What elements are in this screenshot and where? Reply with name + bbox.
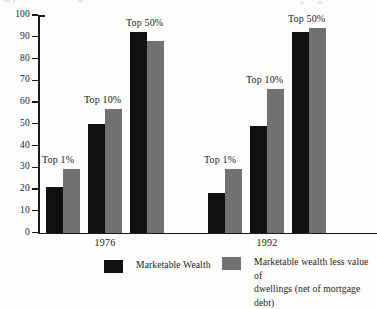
bar-wealth-less-dwellings [225, 169, 242, 232]
pair-annotation-label: Top 1% [204, 154, 236, 165]
pair-annotation-label: Top 1% [42, 154, 74, 165]
y-axis-tick [32, 58, 38, 59]
pair-annotation-label: Top 10% [84, 94, 121, 105]
y-axis-tick [32, 167, 38, 168]
bar-marketable-wealth [88, 124, 105, 233]
y-axis-tick-label: 40 [20, 141, 30, 151]
y-axis-tick-label: 0 [25, 228, 30, 238]
y-axis-tick-label: 60 [20, 97, 30, 107]
y-axis-tick-label: 50 [20, 119, 30, 129]
bar-wealth-less-dwellings [267, 89, 284, 233]
chart-legend: Marketable Wealth Marketable wealth less… [0, 255, 377, 284]
bar-wealth-less-dwellings [309, 28, 326, 232]
y-axis-line [38, 15, 40, 234]
legend-swatch-gray [222, 257, 241, 270]
y-axis-tick [32, 80, 38, 81]
legend-label-line2: dwellings (net of mortgage debt) [254, 282, 377, 309]
y-axis-tick-label: 10 [20, 206, 30, 216]
x-axis-group-label-1976: 1976 [46, 237, 164, 248]
scan-artifact [318, 1, 322, 4]
legend-item-wealth-less-dwellings: Marketable wealth less value of dwelling… [222, 255, 377, 309]
y-axis-tick [32, 123, 38, 124]
scan-artifact [78, 0, 83, 2]
bar-marketable-wealth [46, 187, 63, 233]
y-axis-tick [32, 210, 38, 211]
y-axis-tick-labels: 1009080706050403020100 [0, 15, 30, 234]
x-axis-group-label-1992: 1992 [208, 237, 326, 248]
scan-artifact [4, 0, 10, 2]
y-axis-tick-label: 20 [20, 184, 30, 194]
legend-item-marketable-wealth: Marketable Wealth [104, 258, 211, 273]
y-axis-tick [32, 101, 38, 102]
legend-label-two: Marketable wealth less value of dwelling… [254, 255, 377, 309]
legend-swatch-dark [104, 260, 123, 273]
y-axis-tick [32, 145, 38, 146]
bar-wealth-less-dwellings [105, 109, 122, 233]
y-axis-tick-label: 30 [20, 162, 30, 172]
y-axis-top-cap [38, 15, 45, 17]
bar-marketable-wealth [292, 32, 309, 232]
y-axis-tick [32, 232, 38, 233]
y-axis-tick-label: 100 [15, 10, 30, 20]
y-axis-tick [32, 188, 38, 189]
legend-label-line1: Marketable wealth less value of [254, 256, 368, 281]
bar-wealth-less-dwellings [63, 169, 80, 232]
bar-marketable-wealth [208, 193, 225, 232]
bar-wealth-less-dwellings [147, 41, 164, 232]
legend-label: Marketable Wealth [136, 258, 211, 272]
y-axis-tick-label: 90 [20, 32, 30, 42]
x-axis-line [38, 233, 377, 235]
scan-artifact [300, 1, 304, 4]
scan-artifact [13, 0, 15, 3]
pair-annotation-label: Top 50% [288, 13, 325, 24]
pair-annotation-label: Top 50% [126, 17, 163, 28]
pair-annotation-label: Top 10% [246, 74, 283, 85]
bar-marketable-wealth [130, 32, 147, 232]
y-axis-tick [32, 14, 38, 15]
y-axis-tick [32, 36, 38, 37]
y-axis-tick-label: 70 [20, 75, 30, 85]
y-axis-tick-label: 80 [20, 54, 30, 64]
plot-area: 1009080706050403020100 Top 1%Top 10%Top … [38, 15, 377, 234]
bar-marketable-wealth [250, 126, 267, 233]
